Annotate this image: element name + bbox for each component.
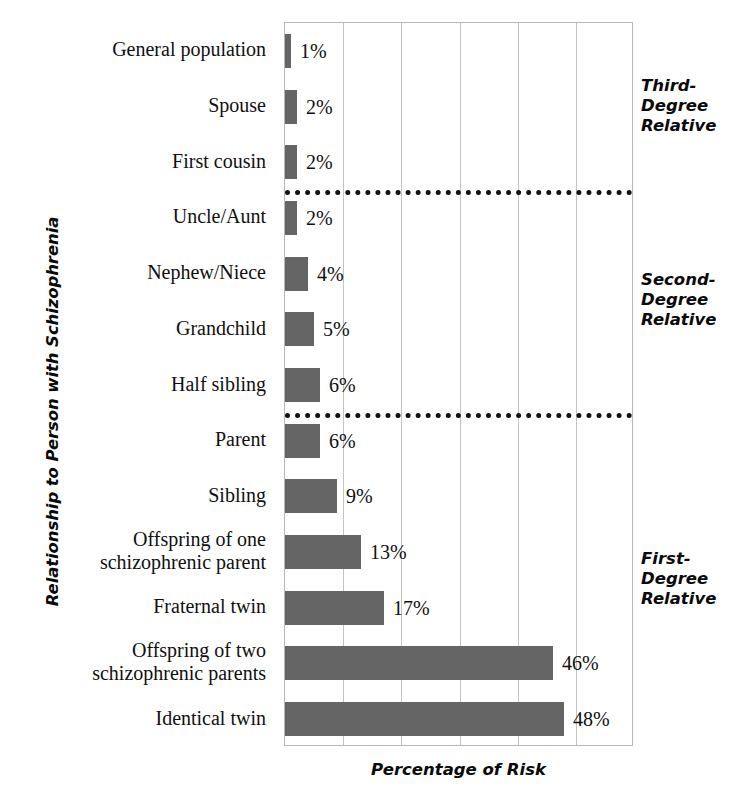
category-label-column: General populationSpouseFirst cousinUncl…: [10, 22, 276, 746]
category-label: Fraternal twin: [4, 595, 266, 618]
group-separator-line: [285, 190, 632, 195]
bar: [285, 368, 320, 402]
bar-value-label: 9%: [346, 485, 373, 507]
bar: [285, 479, 337, 513]
category-label: Sibling: [4, 484, 266, 507]
category-label: Uncle/Aunt: [4, 205, 266, 228]
bar-value-label: 4%: [317, 263, 344, 285]
category-label: First cousin: [4, 150, 266, 173]
bar-value-label: 48%: [573, 708, 610, 730]
bar: [285, 201, 297, 235]
category-label: Parent: [4, 428, 266, 451]
bar: [285, 424, 320, 458]
bar-value-label: 17%: [393, 597, 430, 619]
bar: [285, 702, 564, 736]
bar-value-label: 2%: [306, 151, 333, 173]
bar: [285, 145, 297, 179]
category-label: Half sibling: [4, 373, 266, 396]
bar: [285, 535, 361, 569]
category-label: Offspring of two schizophrenic parents: [4, 639, 266, 685]
category-label: Identical twin: [4, 707, 266, 730]
bar-value-label: 2%: [306, 207, 333, 229]
group-separator-line: [285, 413, 632, 418]
bar: [285, 591, 384, 625]
plot-area: 1%2%2%2%4%5%6%6%9%13%17%46%48%: [284, 22, 633, 746]
group-annotation-label: Third- Degree Relative: [641, 76, 740, 136]
bar-value-label: 5%: [323, 318, 350, 340]
category-label: Nephew/Niece: [4, 261, 266, 284]
bar: [285, 34, 291, 68]
x-gridline: [460, 23, 461, 745]
bar-value-label: 6%: [329, 430, 356, 452]
group-annotation-label: Second- Degree Relative: [641, 270, 740, 330]
group-annotation-label: First- Degree Relative: [641, 549, 740, 609]
x-gridline: [401, 23, 402, 745]
bar-value-label: 13%: [370, 541, 407, 563]
bar: [285, 257, 308, 291]
category-label: Grandchild: [4, 317, 266, 340]
group-annotation-column: Third- Degree RelativeSecond- Degree Rel…: [641, 22, 742, 746]
bar-value-label: 1%: [300, 40, 327, 62]
category-label: General population: [4, 38, 266, 61]
category-label: Spouse: [4, 94, 266, 117]
x-gridline: [576, 23, 577, 745]
bar: [285, 646, 553, 680]
x-gridline: [518, 23, 519, 745]
x-axis-title: Percentage of Risk: [284, 760, 633, 779]
category-label: Offspring of one schizophrenic parent: [4, 528, 266, 574]
bar: [285, 312, 314, 346]
bar-value-label: 2%: [306, 96, 333, 118]
bar-value-label: 46%: [562, 652, 599, 674]
bar-value-label: 6%: [329, 374, 356, 396]
bar: [285, 90, 297, 124]
